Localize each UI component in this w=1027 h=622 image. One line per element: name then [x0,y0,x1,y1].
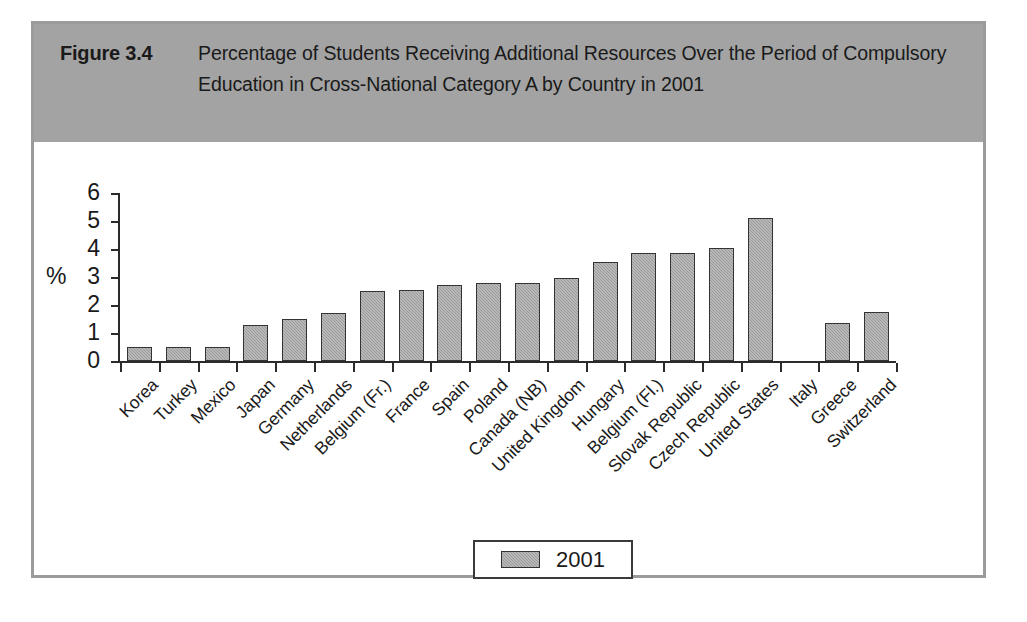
x-tick-6 [353,363,355,372]
x-tick-18 [818,363,820,372]
bar-netherlands [321,313,346,361]
figure-number: Figure 3.4 [60,38,198,69]
bars-layer [120,193,896,361]
x-tick-16 [741,363,743,372]
bar-czech-republic [709,248,734,361]
x-tick-1 [159,363,161,372]
bar-hungary [593,262,618,361]
y-tick-label-2: 2 [87,293,100,316]
x-tick-4 [275,363,277,372]
x-tick-2 [198,363,200,372]
bar-turkey [166,347,191,361]
y-tick-6: 6 [111,193,118,195]
y-tick-label-4: 4 [87,237,100,260]
figure-caption-text: Percentage of Students Receiving Additio… [198,38,957,100]
y-tick-1: 1 [111,333,118,335]
bar-mexico [205,347,230,361]
x-tick-0 [120,363,122,372]
bar-poland [476,283,501,361]
y-tick-label-0: 0 [87,349,100,372]
y-tick-3: 3 [111,277,118,279]
x-tick-12 [586,363,588,372]
x-tick-19 [857,363,859,372]
bar-france [399,290,424,361]
legend-label-2001: 2001 [556,549,605,571]
y-tick-label-5: 5 [87,209,100,232]
y-tick-4: 4 [111,249,118,251]
y-tick-label-6: 6 [87,181,100,204]
figure-caption-band: Figure 3.4 Percentage of Students Receiv… [34,24,983,142]
bar-japan [243,325,268,361]
chart-axes-area: % 0123456 KoreaTurkeyMexicoJapanGermanyN… [118,193,896,361]
y-tick-0: 0 [111,361,118,363]
bar-united-kingdom [554,278,579,361]
y-tick-5: 5 [111,221,118,223]
bar-slovak-republic [670,253,695,361]
bar-belgium-fr [360,291,385,361]
x-tick-5 [314,363,316,372]
bar-greece [825,323,850,361]
chart-plot-body: % 0123456 KoreaTurkeyMexicoJapanGermanyN… [34,142,983,575]
x-tick-9 [469,363,471,372]
chart-legend: 2001 [473,540,633,579]
legend-swatch-2001 [501,551,540,568]
bar-canada-nb [515,283,540,361]
y-axis-title: % [46,265,66,288]
bar-united-states [748,218,773,361]
x-tick-20 [896,363,898,372]
x-tick-11 [547,363,549,372]
bar-belgium-fl [631,253,656,361]
y-tick-label-3: 3 [87,265,100,288]
x-tick-15 [702,363,704,372]
x-tick-3 [236,363,238,372]
x-tick-14 [663,363,665,372]
bar-korea [127,347,152,361]
bar-spain [437,285,462,361]
x-tick-8 [430,363,432,372]
bar-germany [282,319,307,361]
x-tick-7 [392,363,394,372]
x-tick-17 [780,363,782,372]
y-tick-label-1: 1 [87,321,100,344]
bar-switzerland [864,312,889,361]
y-tick-2: 2 [111,305,118,307]
figure-frame: Figure 3.4 Percentage of Students Receiv… [31,21,986,578]
x-tick-13 [624,363,626,372]
x-tick-10 [508,363,510,372]
